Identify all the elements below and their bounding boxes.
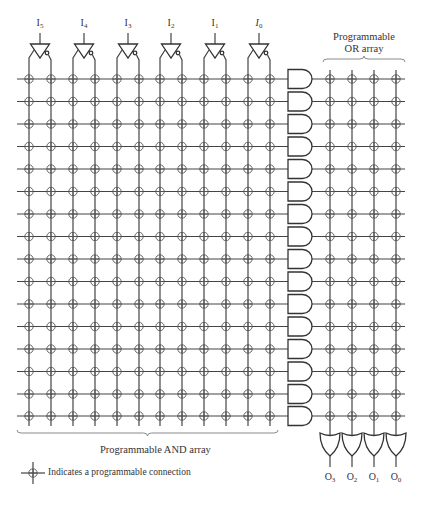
programmable-connection-icon bbox=[370, 142, 378, 150]
programmable-connection-icon bbox=[69, 345, 77, 353]
programmable-connection-icon bbox=[200, 322, 208, 330]
programmable-connection-icon bbox=[200, 390, 208, 398]
programmable-connection-icon bbox=[370, 210, 378, 218]
programmable-connection-icon bbox=[348, 142, 356, 150]
programmable-connection-icon bbox=[69, 412, 77, 420]
programmable-connection-icon bbox=[91, 255, 99, 263]
programmable-connection-icon bbox=[222, 187, 230, 195]
input-label-1: I1 bbox=[212, 18, 219, 30]
programmable-connection-icon bbox=[200, 300, 208, 308]
programmable-connection-icon bbox=[244, 165, 252, 173]
programmable-connection-icon bbox=[200, 232, 208, 240]
programmable-connection-icon bbox=[326, 210, 334, 218]
programmable-connection-icon bbox=[113, 367, 121, 375]
programmable-connection-icon bbox=[25, 210, 33, 218]
and-gate-icon bbox=[288, 137, 312, 156]
programmable-connection-icon bbox=[244, 142, 252, 150]
programmable-connection-icon bbox=[156, 187, 164, 195]
programmable-connection-icon bbox=[326, 97, 334, 105]
programmable-connection-icon bbox=[266, 120, 274, 128]
true-output-line bbox=[160, 50, 165, 63]
and-gate-icon bbox=[288, 227, 312, 246]
programmable-connection-icon bbox=[348, 187, 356, 195]
programmable-connection-icon bbox=[392, 210, 400, 218]
programmable-connection-icon bbox=[222, 322, 230, 330]
buffer-inverter-icon bbox=[248, 33, 270, 63]
programmable-connection-icon bbox=[135, 142, 143, 150]
or-gate-icon bbox=[386, 433, 406, 467]
programmable-connection-icon bbox=[370, 120, 378, 128]
programmable-connection-icon bbox=[135, 277, 143, 285]
programmable-connection-icon bbox=[348, 322, 356, 330]
programmable-connection-icon bbox=[266, 322, 274, 330]
programmable-connection-icon bbox=[135, 165, 143, 173]
programmable-connection-icon bbox=[326, 367, 334, 375]
programmable-connection-icon bbox=[200, 277, 208, 285]
programmable-connection-icon bbox=[326, 75, 334, 83]
programmable-connection-icon bbox=[200, 187, 208, 195]
or-gate-icon bbox=[364, 433, 384, 467]
programmable-connection-icon bbox=[91, 210, 99, 218]
programmable-connection-icon bbox=[348, 390, 356, 398]
programmable-connection-icon bbox=[156, 277, 164, 285]
programmable-connection-icon bbox=[266, 277, 274, 285]
programmable-connection-icon bbox=[47, 390, 55, 398]
programmable-connection-icon bbox=[266, 210, 274, 218]
programmable-connection-icon bbox=[91, 345, 99, 353]
programmable-connection-icon bbox=[91, 390, 99, 398]
and-array-row-lines bbox=[17, 79, 405, 416]
programmable-connection-icon bbox=[178, 142, 186, 150]
programmable-connection-icon bbox=[47, 142, 55, 150]
programmable-connection-icon bbox=[222, 255, 230, 263]
programmable-connection-icon bbox=[91, 165, 99, 173]
programmable-connection-icon bbox=[370, 390, 378, 398]
programmable-connection-icon bbox=[392, 255, 400, 263]
programmable-connection-icon bbox=[326, 412, 334, 420]
programmable-connection-icon bbox=[113, 390, 121, 398]
programmable-connection-icon bbox=[326, 165, 334, 173]
programmable-connection-icon bbox=[178, 412, 186, 420]
programmable-connection-icon bbox=[69, 300, 77, 308]
programmable-connection-icon bbox=[370, 75, 378, 83]
inversion-bubble bbox=[264, 51, 268, 55]
programmable-connection-icon bbox=[47, 97, 55, 105]
inversion-bubble bbox=[220, 51, 224, 55]
programmable-connection-icon bbox=[69, 390, 77, 398]
and-gate-icon bbox=[288, 205, 312, 224]
programmable-connection-icon bbox=[200, 142, 208, 150]
and-array-bracket bbox=[17, 430, 278, 436]
programmable-connection-icon bbox=[47, 322, 55, 330]
programmable-connection-icon bbox=[392, 142, 400, 150]
inversion-bubble bbox=[89, 51, 93, 55]
complement-output-line bbox=[93, 55, 96, 63]
programmable-connection-icon bbox=[244, 75, 252, 83]
and-array-label: Programmable AND array bbox=[100, 445, 211, 456]
programmable-connection-icon bbox=[326, 300, 334, 308]
programmable-connection-icon bbox=[25, 345, 33, 353]
programmable-connection-icon bbox=[135, 390, 143, 398]
programmable-connection-icon bbox=[244, 210, 252, 218]
programmable-connection-icon bbox=[69, 210, 77, 218]
complement-output-line bbox=[180, 55, 183, 63]
programmable-connection-icon bbox=[91, 412, 99, 420]
programmable-connection-icon bbox=[348, 255, 356, 263]
programmable-connection-icon bbox=[25, 390, 33, 398]
programmable-connection-icon bbox=[266, 142, 274, 150]
programmable-connection-icon bbox=[25, 412, 33, 420]
and-gate-icon bbox=[288, 250, 312, 269]
programmable-connection-icon bbox=[113, 277, 121, 285]
or-array-label: Programmable OR array bbox=[333, 31, 395, 55]
programmable-connection-icon bbox=[156, 97, 164, 105]
output-label-1: O1 bbox=[369, 472, 380, 484]
programmable-connection-icon bbox=[113, 345, 121, 353]
programmable-connection-icon bbox=[348, 300, 356, 308]
programmable-connection-icon bbox=[348, 412, 356, 420]
programmable-connection-icon bbox=[135, 210, 143, 218]
programmable-connection-icon bbox=[266, 390, 274, 398]
programmable-connection-icon bbox=[370, 165, 378, 173]
or-gate-body bbox=[342, 433, 362, 456]
programmable-connection-nodes bbox=[25, 75, 400, 420]
programmable-connection-icon bbox=[244, 120, 252, 128]
programmable-connection-icon bbox=[200, 165, 208, 173]
programmable-connection-icon bbox=[69, 367, 77, 375]
